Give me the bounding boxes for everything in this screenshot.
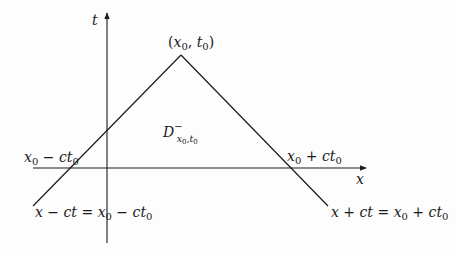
diagram-canvas: t x (x0, t0) D−x0,t0 x0 − ct0 x0 + ct0 x… (0, 0, 457, 255)
left-line-equation: x − ct = x0 − ct0 (35, 204, 152, 222)
right-characteristic-line (181, 55, 328, 206)
t-axis-label: t (92, 12, 98, 28)
region-label: D−x0,t0 (162, 121, 198, 146)
right-intercept-label: x0 + ct0 (287, 148, 342, 166)
x-axis-label: x (356, 171, 364, 187)
characteristic-triangle-diagram: t x (x0, t0) D−x0,t0 x0 − ct0 x0 + ct0 x… (0, 0, 457, 255)
apex-label: (x0, t0) (168, 34, 214, 52)
left-intercept-label: x0 − ct0 (24, 149, 79, 167)
right-line-equation: x + ct = x0 + ct0 (331, 204, 448, 222)
